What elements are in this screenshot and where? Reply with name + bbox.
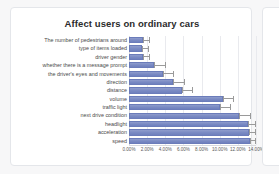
category-label: type of items loaded — [17, 44, 127, 52]
error-bar — [173, 82, 185, 83]
category-label: the driver's eyes and movements — [17, 70, 127, 78]
bar[interactable] — [129, 71, 163, 77]
chart-title: Affect users on ordinary cars — [11, 18, 253, 29]
error-bar — [142, 48, 149, 49]
category-axis-labels: The number of pedestrians aroundtype of … — [17, 36, 127, 145]
bar[interactable] — [129, 79, 173, 85]
error-bar-cap — [149, 54, 150, 60]
category-label: traffic light — [17, 103, 127, 111]
bar[interactable] — [129, 45, 142, 51]
bar-row[interactable] — [129, 137, 256, 145]
value-axis-tick-label: 6.00% — [177, 147, 190, 152]
error-bar-cap — [142, 46, 143, 52]
bar-row[interactable] — [129, 111, 256, 119]
error-bar — [223, 98, 234, 99]
bar-row[interactable] — [129, 86, 256, 94]
error-bar — [250, 140, 256, 141]
value-axis-line — [129, 145, 256, 146]
bar-row[interactable] — [129, 61, 256, 69]
screenshot-root: Affect users on ordinary cars The number… — [0, 0, 279, 174]
bar[interactable] — [129, 113, 239, 119]
error-bar-cap — [220, 104, 221, 110]
bar-series — [129, 36, 256, 145]
error-bar-cap — [143, 54, 144, 60]
value-axis-tick-label: 0.00% — [122, 147, 135, 152]
value-axis-tick-label: 10.00% — [212, 147, 228, 152]
category-label: volume — [17, 95, 127, 103]
bar[interactable] — [129, 104, 220, 110]
error-bar-cap — [148, 46, 149, 52]
error-bar-cap — [149, 37, 150, 43]
bar[interactable] — [129, 87, 182, 93]
error-bar-cap — [182, 87, 183, 93]
bar-row[interactable] — [129, 36, 256, 44]
category-label: distance — [17, 86, 127, 94]
error-bar — [249, 132, 256, 133]
error-bar-cap — [143, 37, 144, 43]
bar-row[interactable] — [129, 103, 256, 111]
category-label: next drive condition — [17, 111, 127, 119]
error-bar — [182, 90, 194, 91]
category-label: driver gender — [17, 53, 127, 61]
value-axis-tick-label: 8.00% — [195, 147, 208, 152]
bar-row[interactable] — [129, 70, 256, 78]
error-bar — [143, 40, 150, 41]
category-label: headlight — [17, 120, 127, 128]
value-axis-tick-label: 2.00% — [141, 147, 154, 152]
error-bar-cap — [165, 62, 166, 68]
error-bar — [163, 73, 175, 74]
bar[interactable] — [129, 129, 249, 135]
error-bar-cap — [233, 96, 234, 102]
error-bar-cap — [173, 79, 174, 85]
error-bar-cap — [230, 104, 231, 110]
bar-row[interactable] — [129, 120, 256, 128]
bar-row[interactable] — [129, 53, 256, 61]
bar-row[interactable] — [129, 78, 256, 86]
bar-row[interactable] — [129, 95, 256, 103]
category-label: whether there is a message prompt — [17, 61, 127, 69]
bar[interactable] — [129, 37, 143, 43]
chart-card: Affect users on ordinary cars The number… — [10, 7, 252, 166]
bar-row[interactable] — [129, 44, 256, 52]
bar[interactable] — [129, 62, 154, 68]
error-bar-cap — [250, 138, 251, 144]
error-bar-cap — [163, 71, 164, 77]
category-label: The number of pedestrians around — [17, 36, 127, 44]
error-bar — [154, 65, 166, 66]
category-label: speed — [17, 137, 127, 145]
value-axis-tick-label: 4.00% — [159, 147, 172, 152]
category-label: acceleration — [17, 128, 127, 136]
value-axis-tick-label: 12.00% — [230, 147, 246, 152]
plot-area — [129, 36, 256, 145]
error-bar-cap — [173, 71, 174, 77]
error-bar-cap — [249, 129, 250, 135]
error-bar — [239, 115, 251, 116]
error-bar-cap — [255, 121, 256, 127]
bar[interactable] — [129, 121, 248, 127]
error-bar-cap — [192, 87, 193, 93]
bar[interactable] — [129, 138, 250, 144]
adjacent-panel — [262, 7, 279, 166]
error-bar — [220, 107, 232, 108]
error-bar-cap — [255, 129, 256, 135]
error-bar-cap — [248, 121, 249, 127]
error-bar-cap — [154, 62, 155, 68]
bar[interactable] — [129, 54, 143, 60]
error-bar-cap — [184, 79, 185, 85]
error-bar — [248, 124, 256, 125]
error-bar — [143, 56, 150, 57]
error-bar-cap — [223, 96, 224, 102]
error-bar-cap — [255, 138, 256, 144]
bar-row[interactable] — [129, 128, 256, 136]
bar[interactable] — [129, 96, 223, 102]
error-bar-cap — [239, 113, 240, 119]
category-label: direction — [17, 78, 127, 86]
error-bar-cap — [250, 113, 251, 119]
value-axis: 0.00%2.00%4.00%6.00%8.00%10.00%12.00%14.… — [129, 145, 256, 157]
